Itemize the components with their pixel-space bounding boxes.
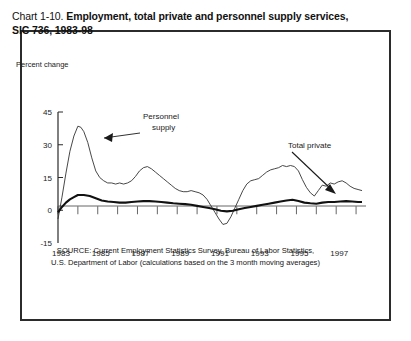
- personnel-supply-label-line1: Personnel: [143, 112, 179, 121]
- y-axis-tick-group: 4530150-15: [40, 108, 63, 248]
- personnel-supply-arrowhead-icon: [104, 133, 113, 142]
- source-note-line-1: SOURCE: Current Employment Statistics Su…: [8, 245, 363, 257]
- total-private-label: Total private: [288, 141, 332, 150]
- source-note: SOURCE: Current Employment Statistics Su…: [8, 245, 363, 268]
- y-tick-label: 0: [48, 206, 53, 215]
- personnel-supply-annotation: Personnel supply: [104, 112, 179, 142]
- y-tick-label: 15: [43, 174, 52, 183]
- chart-figure: Chart 1-10. Employment, total private an…: [0, 0, 411, 341]
- plot-area: 4530150-15 19831985198719891991199319951…: [0, 0, 411, 341]
- y-tick-label: 30: [43, 141, 52, 150]
- source-note-line-2: U.S. Department of Labor (calculations b…: [8, 257, 363, 269]
- personnel-supply-label-line2: supply: [152, 123, 175, 132]
- y-tick-label: 45: [43, 108, 52, 117]
